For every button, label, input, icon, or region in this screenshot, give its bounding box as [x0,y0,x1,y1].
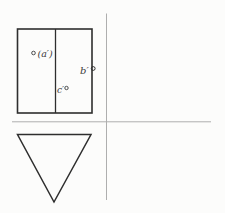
point-label-a: (a′) [38,48,54,59]
diagram-svg: (a′) b′ c′ [0,0,225,213]
point-marker-a-icon [32,51,36,55]
projection-diagram: (a′) b′ c′ [0,0,225,213]
point-label-c: c′ [57,85,64,95]
point-marker-c-icon [65,86,68,89]
point-label-b: b′ [80,65,89,76]
top-view-triangle [18,135,92,203]
